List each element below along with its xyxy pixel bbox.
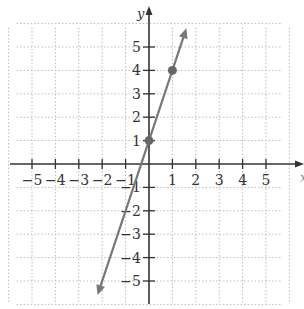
x-tick-label: 3	[215, 172, 224, 188]
y-tick-label: −4	[120, 250, 141, 266]
plotted-point	[145, 136, 154, 145]
y-tick-label: 3	[132, 86, 141, 102]
coordinate-plane: −5−4−3−2−112345−5−4−3−2−112345 y x	[0, 0, 304, 309]
x-tick-label: −4	[45, 172, 66, 188]
x-axis-arrow-icon	[295, 161, 304, 168]
y-axis-arrow-icon	[146, 6, 153, 15]
x-tick-label: −2	[92, 172, 113, 188]
axes	[10, 6, 304, 304]
x-tick-label: 2	[191, 172, 200, 188]
x-tick-label: −3	[68, 172, 89, 188]
x-tick-label: 5	[262, 172, 271, 188]
data-series	[96, 28, 187, 295]
x-axis-label: x	[300, 170, 304, 185]
x-tick-label: −5	[22, 172, 43, 188]
y-tick-label: 5	[132, 39, 141, 55]
y-tick-label: 1	[132, 133, 141, 149]
line-arrow-up-icon	[179, 28, 188, 39]
y-tick-label: 4	[132, 62, 141, 78]
line-arrow-down-icon	[96, 284, 105, 295]
plotted-point	[168, 66, 177, 75]
y-tick-label: −3	[120, 226, 141, 242]
x-tick-label: 1	[168, 172, 177, 188]
y-axis-label: y	[136, 6, 145, 21]
x-tick-label: 4	[238, 172, 247, 188]
y-tick-label: 2	[132, 109, 141, 125]
y-tick-label: −5	[120, 273, 141, 289]
